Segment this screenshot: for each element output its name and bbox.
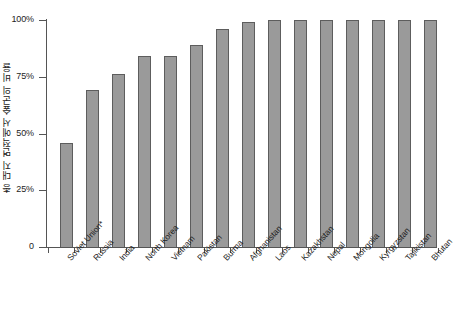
bar[interactable] xyxy=(320,20,333,247)
bar-slot xyxy=(242,20,255,247)
bar[interactable] xyxy=(60,143,73,247)
bar[interactable] xyxy=(268,20,281,247)
bar[interactable] xyxy=(372,20,385,247)
bar[interactable] xyxy=(164,56,177,247)
bar[interactable] xyxy=(190,45,203,247)
plot-area xyxy=(47,20,437,247)
y-tick-75 xyxy=(39,77,46,78)
bar[interactable] xyxy=(242,22,255,247)
bar-slot xyxy=(60,20,73,247)
bar-slot xyxy=(294,20,307,247)
bar[interactable] xyxy=(112,74,125,247)
y-tick-label-50: 50% xyxy=(16,128,34,138)
y-tick-label-0: 0 xyxy=(29,241,34,251)
bar-slot xyxy=(216,20,229,247)
bar[interactable] xyxy=(138,56,151,247)
y-tick-50 xyxy=(39,134,46,135)
y-tick-25 xyxy=(39,190,46,191)
y-tick-0 xyxy=(39,247,46,248)
bar[interactable] xyxy=(294,20,307,247)
bar-slot xyxy=(190,20,203,247)
y-tick-label-75: 75% xyxy=(16,71,34,81)
y-tick-label-25: 25% xyxy=(16,184,34,194)
y-tick-100 xyxy=(39,20,46,21)
bar-slot xyxy=(112,20,125,247)
bar-slot xyxy=(398,20,411,247)
y-axis-title: 총 대지 면적에서 숲군의 비율 xyxy=(2,62,16,193)
bar-slot xyxy=(424,20,437,247)
bar-slot xyxy=(164,20,177,247)
x-tick-origin xyxy=(48,248,49,253)
bar-slot xyxy=(372,20,385,247)
bar-slot xyxy=(320,20,333,247)
bar[interactable] xyxy=(398,20,411,247)
bar[interactable] xyxy=(424,20,437,247)
bar-slot xyxy=(346,20,359,247)
bar[interactable] xyxy=(216,29,229,247)
bar[interactable] xyxy=(346,20,359,247)
y-tick-label-100: 100% xyxy=(11,14,34,24)
bar-slot xyxy=(268,20,281,247)
bar-slot xyxy=(138,20,151,247)
bar-slot xyxy=(86,20,99,247)
